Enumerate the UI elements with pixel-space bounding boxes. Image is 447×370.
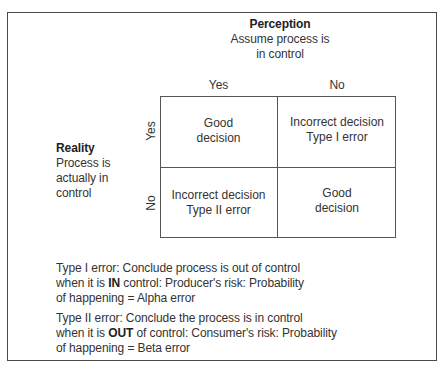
cell-no-no: Good decision (278, 166, 396, 236)
note-line: Type I error: Conclude process is out of… (56, 261, 396, 276)
cell-yes-no: Incorrect decision Type I error (278, 95, 396, 165)
row-header-yes: Yes (144, 116, 158, 146)
cell-line: Type I error (306, 130, 367, 145)
reality-label: Reality Process is actually in control (56, 141, 136, 201)
row-header-no: No (144, 188, 158, 218)
reality-line3: control (56, 186, 136, 201)
note-line: when it is IN control: Producer's risk: … (56, 276, 396, 291)
reality-line1: Process is (56, 156, 136, 171)
cell-line: Type II error (186, 203, 251, 218)
perception-title: Perception (249, 17, 310, 31)
note-line: of happening = Alpha error (56, 291, 396, 306)
note-line: when it is OUT of control: Consumer's ri… (56, 326, 416, 341)
note-text: of control: Consumer's risk: Probability (133, 326, 337, 340)
type1-note: Type I error: Conclude process is out of… (56, 261, 396, 306)
perception-line2: in control (200, 47, 360, 62)
cell-line: Good (204, 116, 233, 131)
reality-title: Reality (56, 141, 95, 155)
note-emphasis: IN (108, 276, 120, 290)
perception-line1: Assume process is (200, 32, 360, 47)
column-header-yes: Yes (160, 78, 277, 93)
note-text: control: Producer's risk: Probability (120, 276, 304, 290)
note-emphasis: OUT (108, 326, 133, 340)
reality-line2: actually in (56, 171, 136, 186)
cell-line: Incorrect decision (290, 115, 384, 130)
column-header-no: No (278, 78, 396, 93)
cell-no-yes: Incorrect decision Type II error (160, 168, 277, 238)
type2-note: Type II error: Conclude the process is i… (56, 311, 416, 356)
cell-line: Incorrect decision (171, 188, 265, 203)
note-line: of happening = Beta error (56, 341, 416, 356)
cell-line: Good (322, 186, 351, 201)
note-text: when it is (56, 276, 108, 290)
cell-yes-yes: Good decision (160, 96, 277, 166)
note-line: Type II error: Conclude the process is i… (56, 311, 416, 326)
note-text: when it is (56, 326, 108, 340)
cell-line: decision (315, 201, 359, 216)
cell-line: decision (196, 131, 240, 146)
perception-header: Perception Assume process is in control (200, 17, 360, 62)
